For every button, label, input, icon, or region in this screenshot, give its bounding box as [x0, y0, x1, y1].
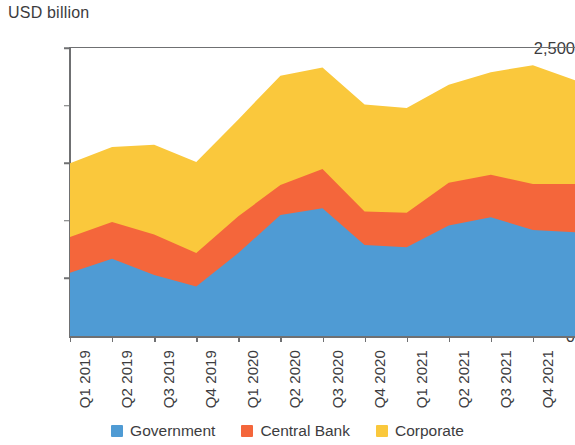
x-axis-tick-label: Q4 2021 — [539, 350, 556, 408]
x-axis-tick-mark — [407, 336, 408, 342]
y-axis-unit-title: USD billion — [8, 4, 89, 22]
stacked-area-chart: USD billion 05001,0001,5002,0002,500 Q1 … — [0, 0, 575, 445]
legend-item-central-bank[interactable]: Central Bank — [241, 422, 350, 440]
x-axis-tick-label: Q1 2019 — [76, 350, 93, 408]
area-series-svg — [70, 48, 575, 336]
legend-label: Central Bank — [260, 422, 350, 440]
legend-swatch-icon — [111, 425, 123, 437]
legend-swatch-icon — [241, 425, 253, 437]
x-axis-tick-mark — [238, 336, 239, 342]
legend-label: Government — [130, 422, 215, 440]
x-axis-tick-mark — [280, 336, 281, 342]
chart-legend: GovernmentCentral BankCorporate — [0, 422, 575, 440]
x-axis-tick-mark — [196, 336, 197, 342]
legend-item-corporate[interactable]: Corporate — [376, 422, 464, 440]
legend-item-government[interactable]: Government — [111, 422, 215, 440]
x-axis-tick-label: Q3 2019 — [160, 350, 177, 408]
legend-swatch-icon — [376, 425, 388, 437]
x-axis-tick-label: Q1 2020 — [244, 350, 261, 408]
x-axis-tick-label: Q2 2019 — [118, 350, 135, 408]
x-axis-tick-label: Q4 2019 — [202, 350, 219, 408]
x-axis-tick-mark — [491, 336, 492, 342]
x-axis-tick-label: Q2 2020 — [286, 350, 303, 408]
x-axis-tick-label: Q4 2020 — [371, 350, 388, 408]
x-axis-tick-mark — [449, 336, 450, 342]
x-axis-tick-label: Q3 2021 — [497, 350, 514, 408]
x-axis-tick-mark — [70, 336, 71, 342]
x-axis-tick-mark — [112, 336, 113, 342]
legend-label: Corporate — [395, 422, 464, 440]
x-axis-tick-mark — [154, 336, 155, 342]
plot-area — [70, 48, 575, 336]
x-axis-tick-label: Q3 2020 — [329, 350, 346, 408]
x-axis-tick-mark — [533, 336, 534, 342]
x-axis-tick-label: Q2 2021 — [455, 350, 472, 408]
x-axis-tick-mark — [323, 336, 324, 342]
x-axis-tick-label: Q1 2021 — [413, 350, 430, 408]
x-axis-tick-mark — [365, 336, 366, 342]
